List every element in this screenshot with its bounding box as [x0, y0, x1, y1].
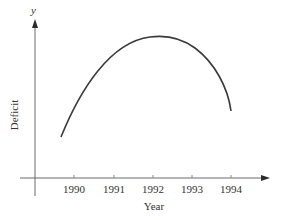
- deficit-chart: y 1990 1991 1992 1993 1994 Year Deficit: [0, 0, 301, 220]
- x-tick-label-1994: 1994: [220, 183, 243, 195]
- y-axis-arrow-icon: [32, 19, 38, 28]
- x-axis-title: Year: [144, 200, 165, 212]
- x-tick-label-1991: 1991: [103, 183, 125, 195]
- y-variable-label: y: [30, 4, 36, 16]
- x-tick-label-1992: 1992: [142, 183, 164, 195]
- deficit-curve: [61, 36, 231, 137]
- x-tick-label-1993: 1993: [181, 183, 204, 195]
- x-axis-arrow-icon: [261, 175, 270, 181]
- x-tick-label-1990: 1990: [63, 183, 86, 195]
- y-axis-title: Deficit: [8, 100, 20, 131]
